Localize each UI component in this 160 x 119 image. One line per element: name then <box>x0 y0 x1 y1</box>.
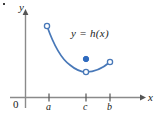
y-axis-label: y <box>19 2 24 13</box>
filled-point-hc <box>83 56 88 61</box>
graph-svg <box>0 0 160 119</box>
tick-label-a: a <box>46 102 51 112</box>
x-axis <box>10 95 146 101</box>
open-point-left <box>44 23 49 28</box>
tick-label-c: c <box>83 102 87 112</box>
origin-label: 0 <box>13 99 19 110</box>
x-axis-label: x <box>148 92 153 103</box>
curve-equation-label: y = h(x) <box>71 28 109 39</box>
figure-canvas: y x 0 a c b y = h(x) <box>0 0 160 119</box>
y-axis <box>23 9 29 108</box>
tick-label-b: b <box>107 102 112 112</box>
open-point-min <box>83 69 88 74</box>
open-point-right <box>107 59 112 64</box>
x-axis-arrowhead <box>140 95 146 101</box>
